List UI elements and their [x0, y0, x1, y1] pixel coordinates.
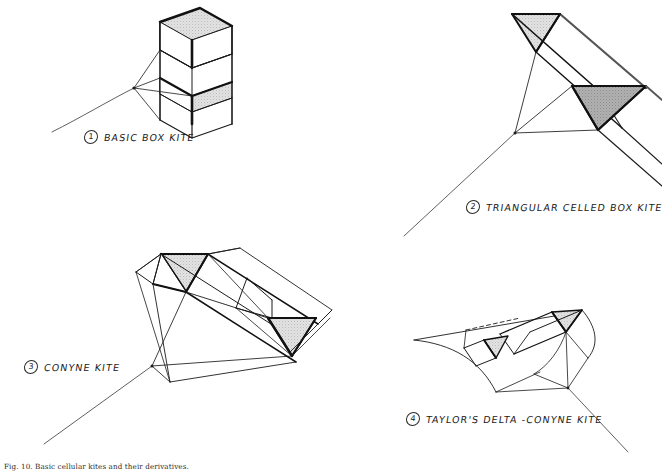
figure-3-number: 3 [23, 360, 38, 374]
figure-2-caption: 2TRIANGULAR CELLED BOX KITE [465, 200, 662, 214]
figure-2-tether-line [404, 133, 515, 236]
figure-3-bridle [152, 292, 292, 382]
figure-4-bridle [496, 332, 588, 392]
figure-4-label: TAYLOR'S DELTA -CONYNE KITE [425, 414, 603, 425]
figure-1-number: 1 [83, 130, 98, 144]
kite-drawings [0, 0, 662, 474]
figure-3-tether-line [44, 366, 152, 444]
figure-1-label: BASIC BOX KITE [103, 132, 195, 143]
figure-1-caption: 1BASIC BOX KITE [83, 130, 196, 144]
figure-3-caption: 3CONYNE KITE [23, 360, 121, 374]
figure-2-label: TRIANGULAR CELLED BOX KITE [485, 202, 662, 213]
figure-4-caption: 4TAYLOR'S DELTA -CONYNE KITE [405, 412, 604, 426]
figure-3-conyne-kite [44, 248, 332, 444]
figure-4-dashed-fold-line [466, 318, 520, 330]
figure-4-taylors-delta-conyne-kite [414, 310, 628, 452]
figure-note: Fig. 10. Basic cellular kites and their … [4, 462, 189, 473]
figure-1-basic-box-kite [52, 8, 232, 138]
illustration-sheet: 1BASIC BOX KITE 2TRIANGULAR CELLED BOX K… [0, 0, 662, 474]
figure-2-number: 2 [465, 200, 480, 214]
figure-1-tether-line [52, 88, 134, 132]
figure-3-label: CONYNE KITE [43, 362, 121, 373]
figure-4-number: 4 [405, 412, 420, 426]
